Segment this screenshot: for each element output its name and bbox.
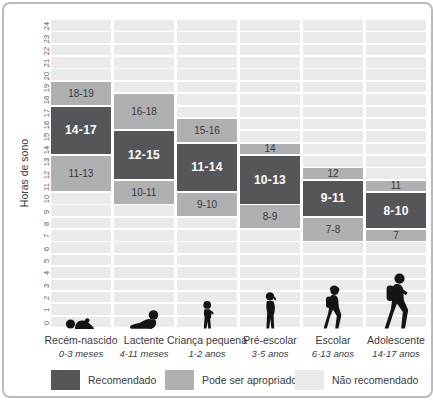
not-recommended-cell	[366, 57, 426, 68]
band-range-label: 14	[264, 143, 275, 154]
band-range-label: 12-15	[128, 148, 160, 162]
not-recommended-cell	[303, 119, 363, 130]
preschooler-icon	[262, 292, 278, 329]
adolescente-appropriate-band: 11	[366, 181, 426, 192]
band-range-label: 9-10	[197, 199, 217, 210]
adolescente-appropriate-band: 7	[366, 230, 426, 241]
not-recommended-cell	[303, 32, 363, 43]
not-recommended-cell	[177, 218, 237, 229]
lactente-appropriate-band: 10-11	[114, 181, 174, 204]
band-range-label: 8-10	[383, 204, 408, 218]
not-recommended-cell	[366, 20, 426, 31]
group-name-pre-escolar: Pré-escolar	[243, 334, 297, 346]
recem-nascido-appropriate-band: 18-19	[51, 82, 111, 105]
not-recommended-cell	[366, 144, 426, 155]
not-recommended-cell	[114, 57, 174, 68]
not-recommended-cell	[366, 45, 426, 56]
not-recommended-cell	[366, 69, 426, 80]
escolar-appropriate-band: 12	[303, 168, 363, 179]
not-recommended-cell	[114, 280, 174, 291]
legend-swatch-recommended	[51, 370, 80, 390]
not-recommended-cell	[240, 255, 300, 266]
group-name-adolescente: Adolescente	[367, 334, 425, 346]
band-range-label: 18-19	[68, 88, 94, 99]
band-range-label: 7-8	[326, 224, 340, 235]
legend-label: Recomendado	[88, 374, 156, 386]
not-recommended-cell	[114, 230, 174, 241]
not-recommended-cell	[177, 82, 237, 93]
not-recommended-cell	[114, 20, 174, 31]
group-name-recem-nascido: Recém-nascido	[45, 334, 118, 346]
not-recommended-cell	[240, 242, 300, 253]
pre-escolar-appropriate-band: 14	[240, 144, 300, 155]
group-age-escolar: 6-13 anos	[312, 348, 354, 359]
recem-nascido-recommended-band: 14-17	[51, 107, 111, 155]
crianca-pequena-appropriate-band: 15-16	[177, 119, 237, 142]
group-age-adolescente: 14-17 anos	[372, 348, 420, 359]
not-recommended-cell	[366, 32, 426, 43]
not-recommended-cell	[303, 82, 363, 93]
not-recommended-cell	[51, 32, 111, 43]
band-range-label: 11-13	[69, 168, 94, 179]
pre-escolar-recommended-band: 10-13	[240, 156, 300, 204]
not-recommended-cell	[303, 242, 363, 253]
not-recommended-cell	[303, 69, 363, 80]
not-recommended-cell	[303, 131, 363, 142]
legend-item-not-recommended: Não recomendado	[295, 370, 418, 390]
school-child-icon	[320, 285, 346, 329]
not-recommended-cell	[240, 82, 300, 93]
not-recommended-cell	[303, 144, 363, 155]
band-range-label: 14-17	[65, 123, 97, 137]
not-recommended-cell	[240, 280, 300, 291]
not-recommended-cell	[51, 69, 111, 80]
not-recommended-cell	[51, 45, 111, 56]
y-axis-title: Horas de sono	[18, 139, 30, 207]
legend-item-appropriate: Pode ser apropriado	[165, 370, 297, 390]
not-recommended-cell	[114, 32, 174, 43]
not-recommended-cell	[114, 255, 174, 266]
not-recommended-cell	[114, 267, 174, 278]
lactente-recommended-band: 12-15	[114, 131, 174, 179]
not-recommended-cell	[114, 292, 174, 303]
crawling-baby-icon	[129, 310, 159, 329]
not-recommended-cell	[240, 57, 300, 68]
not-recommended-cell	[177, 255, 237, 266]
not-recommended-cell	[51, 57, 111, 68]
band-range-label: 9-11	[321, 191, 346, 205]
group-age-recem-nascido: 0-3 meses	[59, 348, 103, 359]
group-name-crianca-pequena: Criança pequena	[167, 334, 247, 346]
not-recommended-cell	[51, 205, 111, 216]
not-recommended-cell	[177, 107, 237, 118]
not-recommended-cell	[177, 57, 237, 68]
not-recommended-cell	[366, 255, 426, 266]
not-recommended-cell	[240, 94, 300, 105]
group-age-crianca-pequena: 1-2 anos	[189, 348, 226, 359]
not-recommended-cell	[51, 193, 111, 204]
group-name-escolar: Escolar	[315, 334, 350, 346]
not-recommended-cell	[240, 69, 300, 80]
not-recommended-cell	[240, 45, 300, 56]
not-recommended-cell	[240, 20, 300, 31]
band-range-label: 8-9	[263, 211, 277, 222]
group-name-lactente: Lactente	[124, 334, 164, 346]
not-recommended-cell	[240, 119, 300, 130]
not-recommended-cell	[366, 156, 426, 167]
crianca-pequena-recommended-band: 11-14	[177, 144, 237, 192]
band-range-label: 11-14	[191, 160, 223, 174]
not-recommended-cell	[240, 267, 300, 278]
not-recommended-cell	[51, 255, 111, 266]
band-range-label: 16-18	[131, 106, 157, 117]
toddler-icon	[200, 301, 215, 329]
not-recommended-cell	[240, 107, 300, 118]
not-recommended-cell	[114, 205, 174, 216]
escolar-recommended-band: 9-11	[303, 181, 363, 216]
not-recommended-cell	[177, 94, 237, 105]
not-recommended-cell	[303, 267, 363, 278]
not-recommended-cell	[366, 168, 426, 179]
not-recommended-cell	[240, 32, 300, 43]
not-recommended-cell	[303, 45, 363, 56]
not-recommended-cell	[51, 230, 111, 241]
not-recommended-cell	[51, 20, 111, 31]
not-recommended-cell	[303, 57, 363, 68]
not-recommended-cell	[303, 156, 363, 167]
